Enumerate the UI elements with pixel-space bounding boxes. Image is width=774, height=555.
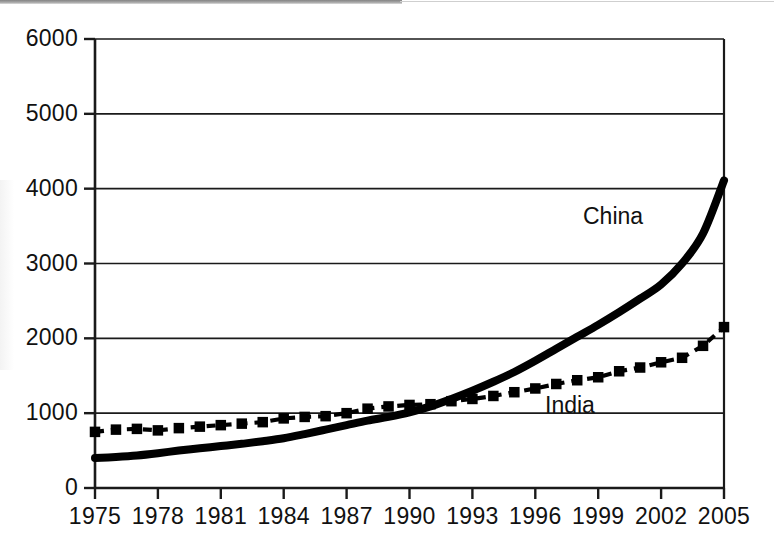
y-tick-label-5000: 5000 [0, 102, 78, 125]
y-tick-label-2000: 2000 [0, 326, 78, 349]
y-tick-label-0: 0 [0, 476, 78, 499]
series-annotation-india: India [545, 394, 595, 417]
y-tick-label-4000: 4000 [0, 177, 78, 200]
y-tick-label-6000: 6000 [0, 27, 78, 50]
series-markers-india [90, 322, 730, 437]
y-tick-label-3000: 3000 [0, 252, 78, 275]
y-tick-label-1000: 1000 [0, 401, 78, 424]
series-annotation-china: China [583, 205, 643, 228]
line-chart: 0100020003000400050006000 19751978198119… [0, 0, 774, 555]
y-axis-ticks [84, 39, 95, 488]
x-tick-label-2005: 2005 [686, 505, 762, 528]
x-axis-ticks [95, 488, 724, 499]
plot-canvas [0, 0, 774, 555]
